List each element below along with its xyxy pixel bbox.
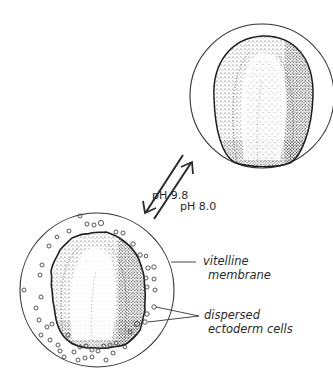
dispersed-label-line1: dispersed	[204, 309, 260, 322]
ph-8-0-label: pH 8.0	[180, 200, 216, 213]
diagram-canvas	[0, 0, 333, 375]
intact-embryo	[190, 24, 333, 170]
cell-leader-line-2	[148, 316, 199, 322]
vitelline-label-line1: vitelline	[203, 255, 249, 268]
dispersed-label-line2: ectoderm cells	[208, 323, 293, 336]
vitelline-label-line2: membrane	[208, 269, 271, 282]
top-embryo-body	[210, 30, 320, 170]
cell-leader-line-1	[156, 307, 199, 316]
dispersed-embryo	[20, 213, 199, 367]
